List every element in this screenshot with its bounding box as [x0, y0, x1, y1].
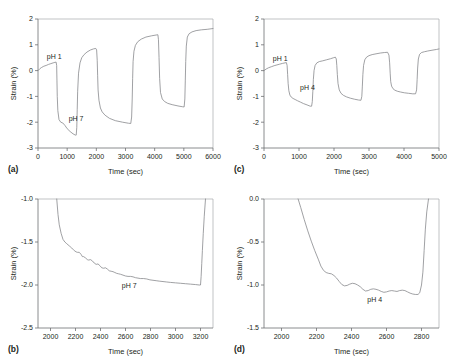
x-tick-label: 2600 [118, 333, 134, 340]
y-tick-label: 0.0 [249, 195, 259, 202]
y-tick-label: -2 [27, 119, 33, 126]
x-tick-label: 5000 [431, 153, 447, 160]
series-annotation-label: pH 1 [273, 55, 288, 63]
x-tick-label: 3200 [193, 333, 209, 340]
x-tick-label: 4000 [396, 153, 412, 160]
y-tick-label: -2 [253, 119, 259, 126]
x-tick-label: 6000 [205, 153, 221, 160]
panel-c-plot-area: -3-2-1012010002000300040005000Time (sec)… [235, 15, 447, 176]
x-tick-label: 2000 [326, 153, 342, 160]
x-tick-label: 3000 [168, 333, 184, 340]
panel-a-chart: -3-2-10120100020003000400050006000Time (… [0, 0, 226, 180]
y-tick-label: -1.5 [21, 238, 33, 245]
panel-b-plot-area: -2.5-2.0-1.5-1.0200022002400260028003000… [9, 195, 213, 356]
y-tick-label: -1 [27, 93, 33, 100]
y-tick-label: 2 [29, 15, 33, 22]
x-axis-title: Time (sec) [334, 167, 370, 176]
data-curve [57, 199, 206, 285]
series-annotation-label: pH 4 [300, 84, 315, 92]
panel-a: -3-2-10120100020003000400050006000Time (… [0, 0, 226, 180]
x-tick-label: 2400 [93, 333, 109, 340]
x-tick-label: 3000 [361, 153, 377, 160]
y-tick-label: -1 [253, 93, 259, 100]
panel-d-plot-area: -1.5-1.0-0.50.020002200240026002800Time … [235, 195, 439, 356]
data-curve [38, 29, 213, 136]
x-tick-label: 2000 [89, 153, 105, 160]
x-tick-label: 2600 [379, 333, 395, 340]
series-annotation-label: pH 4 [367, 296, 382, 304]
x-tick-label: 0 [36, 153, 40, 160]
x-tick-label: 2800 [143, 333, 159, 340]
y-axis-title: Strain (%) [9, 66, 18, 100]
y-axis-title: Strain (%) [235, 246, 244, 280]
x-axis-title: Time (sec) [108, 167, 144, 176]
x-tick-label: 5000 [176, 153, 192, 160]
series-annotation-label: pH 1 [47, 53, 62, 61]
data-curve [264, 49, 439, 106]
x-tick-label: 2200 [68, 333, 84, 340]
y-tick-label: -0.5 [247, 238, 259, 245]
x-tick-label: 3000 [118, 153, 134, 160]
panel-c: -3-2-1012010002000300040005000Time (sec)… [226, 0, 452, 180]
y-tick-label: 1 [255, 41, 259, 48]
series-annotation-label: pH 7 [69, 115, 84, 123]
y-tick-label: -3 [27, 144, 33, 151]
x-tick-label: 1000 [291, 153, 307, 160]
x-tick-label: 0 [262, 153, 266, 160]
y-tick-label: -2.5 [21, 324, 33, 331]
y-tick-label: -1.0 [21, 195, 33, 202]
y-tick-label: -2.0 [21, 281, 33, 288]
x-tick-label: 4000 [147, 153, 163, 160]
panel-a-letter: (a) [8, 164, 18, 174]
figure-strain-vs-time: -3-2-10120100020003000400050006000Time (… [0, 0, 452, 360]
x-axis-title: Time (sec) [108, 347, 144, 356]
y-axis-title: Strain (%) [9, 246, 18, 280]
data-curve [298, 199, 428, 294]
x-tick-label: 2200 [309, 333, 325, 340]
y-tick-label: 0 [29, 67, 33, 74]
panel-d-chart: -1.5-1.0-0.50.020002200240026002800Time … [226, 180, 452, 360]
y-axis-title: Strain (%) [235, 66, 244, 100]
panel-d: -1.5-1.0-0.50.020002200240026002800Time … [226, 180, 452, 360]
y-tick-label: -3 [253, 144, 259, 151]
y-tick-label: 2 [255, 15, 259, 22]
panel-b: -2.5-2.0-1.5-1.0200022002400260028003000… [0, 180, 226, 360]
y-tick-label: 0 [255, 67, 259, 74]
y-tick-label: -1.5 [247, 324, 259, 331]
series-annotation-label: pH 7 [122, 282, 137, 290]
x-tick-label: 2400 [344, 333, 360, 340]
panel-b-letter: (b) [8, 344, 19, 354]
panel-a-plot-area: -3-2-10120100020003000400050006000Time (… [9, 15, 221, 176]
panel-c-chart: -3-2-1012010002000300040005000Time (sec)… [226, 0, 452, 180]
x-tick-label: 2000 [274, 333, 290, 340]
x-axis-title: Time (sec) [334, 347, 370, 356]
panel-d-letter: (d) [234, 344, 245, 354]
panel-c-letter: (c) [234, 164, 244, 174]
panel-b-chart: -2.5-2.0-1.5-1.0200022002400260028003000… [0, 180, 226, 360]
y-tick-label: 1 [29, 41, 33, 48]
x-tick-label: 2800 [414, 333, 430, 340]
x-tick-label: 1000 [59, 153, 75, 160]
y-tick-label: -1.0 [247, 281, 259, 288]
x-tick-label: 2000 [43, 333, 59, 340]
